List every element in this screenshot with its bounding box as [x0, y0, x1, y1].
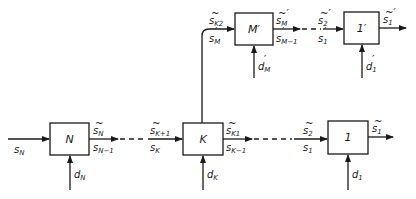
label-s-n: sN [14, 144, 25, 157]
stage-label-k: K [199, 133, 207, 146]
tilde-n: ~ [95, 118, 103, 129]
label-d-n: dN [74, 169, 86, 182]
tilde-prime-2: ~′ [320, 8, 331, 19]
label-d-k: dK [207, 169, 219, 182]
label-s-nm1: sN−1 [93, 142, 114, 155]
label-s-k: sK [150, 142, 161, 155]
stage-label-1-prime: 1′ [357, 22, 367, 35]
tilde-k1: ~ [228, 118, 236, 129]
tilde-prime-m: ~′ [278, 8, 289, 19]
tilde-1: ~ [374, 116, 382, 127]
stage-label-1: 1 [345, 131, 352, 144]
prime-d-1: ′ [372, 54, 375, 65]
tilde-prime-1: ~′ [385, 7, 396, 18]
label-s-1: s1 [303, 142, 313, 155]
tilde-kp1: ~ [152, 118, 160, 129]
stage-label-m-prime: M′ [248, 23, 260, 36]
label-d-1: d1 [352, 169, 363, 182]
label-s-km1: sK−1 [226, 142, 246, 155]
stage-label-n: N [65, 133, 73, 146]
tilde-2: ~ [305, 118, 313, 129]
multistage-diagram: sN N dN sN ~ sN−1 sK+1 ~ sK K dK sK1 ~ s… [0, 0, 416, 199]
label-sprime-mm1: sM−1 [276, 33, 298, 46]
tilde-k2: ~ [211, 8, 219, 19]
prime-d-m: ′ [264, 54, 267, 65]
